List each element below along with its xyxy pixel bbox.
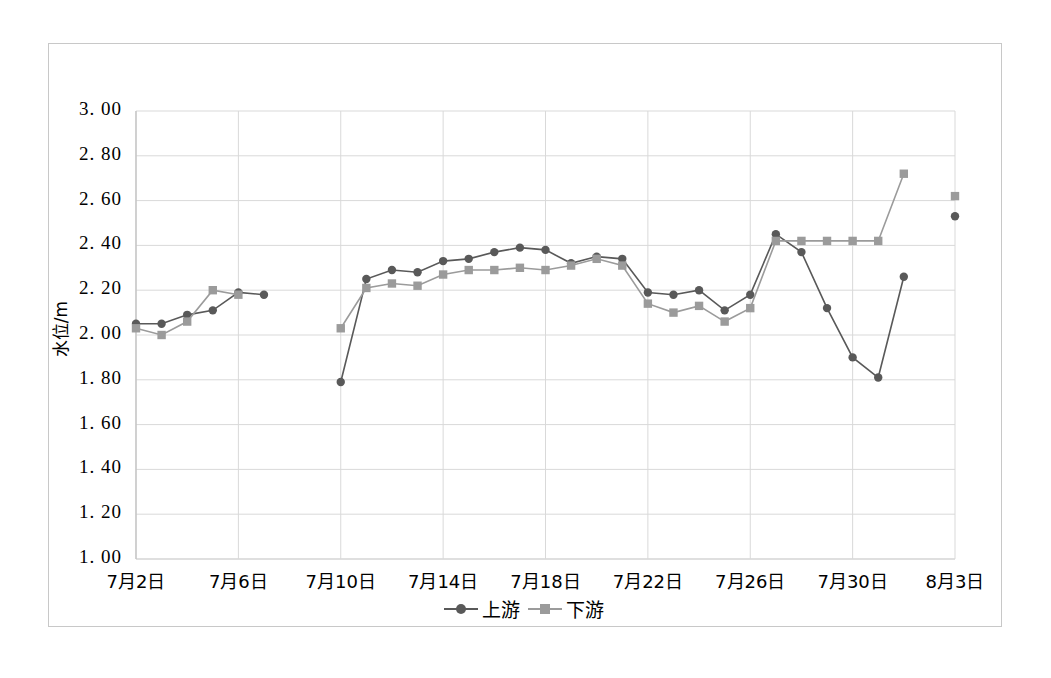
data-point-marker [337,378,345,386]
data-point-marker [541,246,549,254]
data-point-marker [874,237,882,245]
series-line-上游 [136,292,264,323]
data-point-marker [490,266,498,274]
legend-circle-marker-icon [444,602,478,616]
data-point-marker [592,255,600,263]
data-point-marker [234,290,242,298]
data-point-marker [362,284,370,292]
data-point-marker [669,290,677,298]
legend-item-上游[interactable]: 上游 [444,595,522,622]
plot-area: 水位/m 3. 002. 802. 602. 402. 202. 001. 80… [49,44,1001,626]
data-point-marker [209,306,217,314]
data-point-marker [669,308,677,316]
data-point-marker [465,255,473,263]
data-point-marker [797,237,805,245]
data-point-marker [720,317,728,325]
chart-canvas [49,44,1003,628]
legend-item-下游[interactable]: 下游 [528,595,606,622]
data-point-marker [541,266,549,274]
chart-figure: 水位/m 3. 002. 802. 602. 402. 202. 001. 80… [48,43,1002,627]
data-point-marker [413,268,421,276]
data-point-marker [720,306,728,314]
data-point-marker [644,288,652,296]
legend-label: 上游 [482,595,520,622]
data-point-marker [900,273,908,281]
data-point-marker [695,286,703,294]
data-point-marker [567,261,575,269]
data-point-marker [439,257,447,265]
data-point-marker [848,353,856,361]
data-point-marker [388,266,396,274]
data-point-marker [516,243,524,251]
data-point-marker [157,320,165,328]
data-point-marker [644,299,652,307]
data-point-marker [900,170,908,178]
legend-label: 下游 [566,595,604,622]
data-point-marker [388,279,396,287]
data-point-marker [490,248,498,256]
data-point-marker [362,275,370,283]
data-point-marker [516,264,524,272]
data-point-marker [823,304,831,312]
data-point-marker [951,192,959,200]
legend-square-marker-icon [528,602,562,616]
data-point-marker [260,290,268,298]
data-point-marker [797,248,805,256]
data-point-marker [823,237,831,245]
series-line-下游 [341,174,904,329]
chart-legend: 上游下游 [49,595,1001,622]
data-point-marker [413,282,421,290]
data-point-marker [848,237,856,245]
gridlines [136,111,955,559]
data-point-marker [874,373,882,381]
data-point-marker [746,290,754,298]
data-point-marker [183,317,191,325]
data-point-marker [772,237,780,245]
data-point-marker [951,212,959,220]
data-point-marker [132,324,140,332]
data-point-marker [465,266,473,274]
data-point-marker [157,331,165,339]
data-point-marker [618,261,626,269]
data-point-marker [746,304,754,312]
data-point-marker [439,270,447,278]
data-point-marker [209,286,217,294]
data-point-marker [337,324,345,332]
data-point-marker [695,302,703,310]
